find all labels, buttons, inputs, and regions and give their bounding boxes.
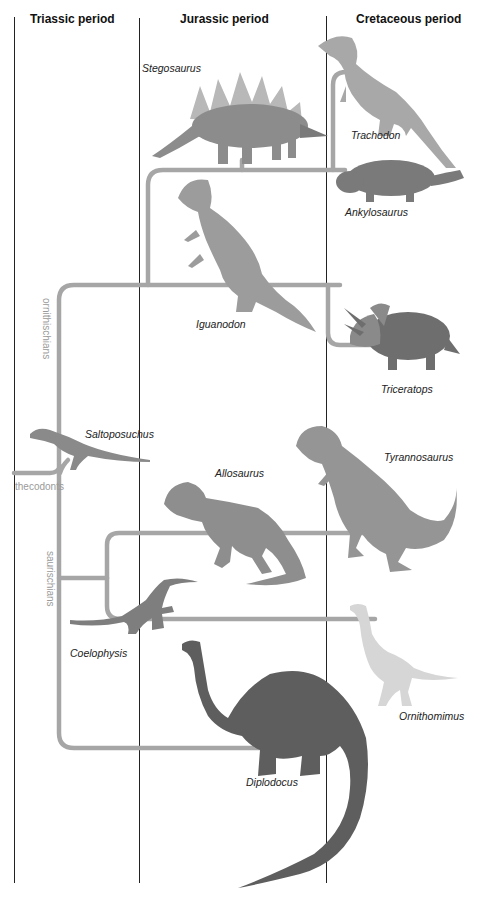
tyrannosaurus-illustration — [294, 424, 460, 578]
group-label-thecodonts: thecodonts — [15, 481, 64, 492]
dino-label-trachodon: Trachodon — [351, 129, 400, 141]
group-label-ornithischians: ornithischians — [41, 298, 52, 359]
dino-label-saltoposuchus: Saltoposuchus — [85, 428, 154, 440]
triceratops-illustration — [340, 296, 460, 374]
trachodon-illustration — [316, 30, 466, 170]
ankylosaurus-illustration — [336, 152, 466, 204]
diplodocus-illustration — [180, 638, 380, 894]
coelophysis-illustration — [68, 576, 200, 638]
dino-label-ornithomimus: Ornithomimus — [399, 710, 464, 722]
dino-label-tyrannosaurus: Tyrannosaurus — [384, 451, 453, 463]
dino-label-stegosaurus: Stegosaurus — [142, 62, 201, 74]
dino-label-iguanodon: Iguanodon — [196, 318, 246, 330]
dino-label-allosaurus: Allosaurus — [215, 467, 264, 479]
dino-label-diplodocus: Diplodocus — [246, 776, 298, 788]
dino-label-ankylosaurus: Ankylosaurus — [345, 206, 408, 218]
allosaurus-illustration — [162, 478, 312, 590]
iguanodon-illustration — [176, 174, 316, 334]
stegosaurus-illustration — [150, 64, 330, 172]
dino-label-coelophysis: Coelophysis — [70, 647, 127, 659]
dino-label-triceratops: Triceratops — [381, 383, 433, 395]
group-label-saurischians: saurischians — [45, 551, 56, 607]
